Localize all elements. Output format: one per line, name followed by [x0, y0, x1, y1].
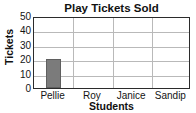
chart-title: Play Tickets Sold — [33, 0, 190, 16]
y-axis-tick-label: 10 — [9, 70, 31, 80]
y-axis-tick-label: 0 — [9, 84, 31, 94]
bars-layer — [34, 18, 189, 88]
plot-area — [33, 17, 190, 89]
y-axis-tick-label: 50 — [9, 12, 31, 22]
bar — [46, 59, 61, 88]
y-axis-tick-label: 20 — [9, 55, 31, 65]
x-axis-label: Students — [33, 100, 190, 112]
y-axis-tick-labels: 01020304050 — [6, 17, 31, 89]
bar-chart: Play Tickets Sold Tickets 01020304050 Pe… — [0, 0, 196, 113]
y-axis-tick-label: 30 — [9, 41, 31, 51]
y-axis-tick-label: 40 — [9, 26, 31, 36]
